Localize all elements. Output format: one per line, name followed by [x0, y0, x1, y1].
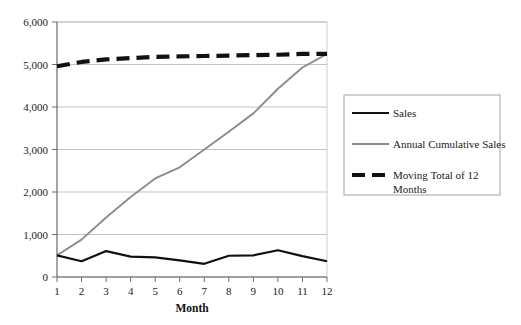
legend-label-sales: Sales	[393, 107, 416, 119]
x-axis	[57, 277, 327, 282]
y-tick-label: 4,000	[23, 101, 48, 113]
y-tick-label: 0	[43, 271, 49, 283]
x-tick-label: 10	[272, 285, 284, 297]
x-tick-label: 5	[152, 285, 158, 297]
x-tick-label: 3	[103, 285, 109, 297]
y-tick-label: 6,000	[23, 16, 48, 28]
x-tick-label: 9	[251, 285, 257, 297]
data-series-layer	[57, 54, 327, 264]
x-tick-labels: 123456789101112	[54, 285, 332, 297]
x-tick-label: 4	[128, 285, 134, 297]
x-tick-label: 12	[322, 285, 333, 297]
legend: Sales Annual Cumulative Sales Moving Tot…	[344, 95, 505, 195]
x-tick-label: 7	[202, 285, 208, 297]
x-tick-label: 2	[79, 285, 85, 297]
y-tick-label: 1,000	[23, 229, 48, 241]
x-axis-title: Month	[175, 302, 209, 314]
series-line-sales	[57, 250, 327, 264]
y-tick-labels: 6,000 5,000 4,000 3,000 2,000 1,000 0	[23, 16, 48, 283]
legend-label-annual-cumulative-sales: Annual Cumulative Sales	[393, 138, 505, 150]
legend-label-moving-total-line2: Months	[393, 183, 427, 195]
x-tick-label: 8	[226, 285, 232, 297]
y-tick-label: 3,000	[23, 144, 48, 156]
x-tick-label: 1	[54, 285, 60, 297]
x-tick-label: 11	[297, 285, 308, 297]
legend-label-moving-total-line1: Moving Total of 12	[393, 169, 479, 181]
chart-figure: 6,000 5,000 4,000 3,000 2,000 1,000 0 12…	[0, 0, 521, 325]
line-chart: 6,000 5,000 4,000 3,000 2,000 1,000 0 12…	[0, 0, 521, 325]
y-tick-label: 2,000	[23, 186, 48, 198]
series-line-annual-cumulative-sales	[57, 54, 327, 255]
y-axis	[52, 22, 57, 277]
y-tick-label: 5,000	[23, 59, 48, 71]
x-tick-label: 6	[177, 285, 183, 297]
